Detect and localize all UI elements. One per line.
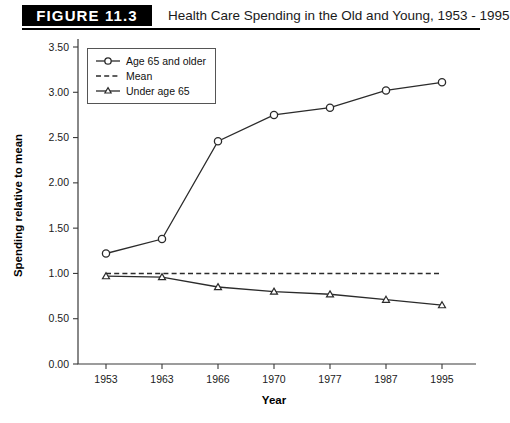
legend-label: Age 65 and older (126, 55, 206, 67)
y-tick-label: 2.00 (49, 176, 70, 188)
legend-label: Under age 65 (126, 85, 190, 97)
y-tick-label: 0.50 (49, 312, 70, 324)
legend-item-mean: Mean (95, 68, 206, 83)
header-divider (22, 28, 480, 30)
x-tick-label: 1953 (94, 373, 118, 385)
data-point-marker (270, 111, 277, 118)
y-tick-label: 0.00 (49, 358, 70, 370)
legend-key-circle-icon (95, 55, 121, 67)
x-tick-label: 1970 (262, 373, 286, 385)
data-point-marker (326, 104, 333, 111)
data-point-marker (438, 79, 445, 86)
y-tick-label: 2.50 (49, 131, 70, 143)
figure-title: Health Care Spending in the Old and Youn… (168, 6, 510, 26)
y-tick-label: 1.50 (49, 222, 70, 234)
x-tick-label: 1987 (374, 373, 398, 385)
line-chart: 0.000.501.001.502.002.503.003.5019531963… (0, 34, 499, 423)
data-point-marker (214, 138, 221, 145)
legend-key-dashed-icon (95, 70, 121, 82)
x-tick-label: 1995 (430, 373, 454, 385)
y-axis-title: Spending relative to mean (12, 134, 24, 277)
x-tick-label: 1977 (318, 373, 342, 385)
figure-header: FIGURE 11.3 Health Care Spending in the … (0, 0, 499, 34)
x-tick-label: 1966 (206, 373, 230, 385)
legend-item-age-65-and-older: Age 65 and older (95, 53, 206, 68)
y-tick-label: 1.00 (49, 267, 70, 279)
chart-canvas: 0.000.501.001.502.002.503.003.5019531963… (0, 34, 499, 423)
y-tick-label: 3.00 (49, 86, 70, 98)
data-point-marker (158, 235, 165, 242)
legend-item-under-age-65: Under age 65 (95, 83, 206, 98)
x-tick-label: 1963 (150, 373, 174, 385)
series-line-age-65-and-older (106, 82, 442, 253)
legend-label: Mean (126, 70, 152, 82)
y-tick-label: 3.50 (49, 41, 70, 53)
chart-legend: Age 65 and older Mean Under age 65 (87, 48, 216, 104)
data-point-marker (382, 87, 389, 94)
legend-key-triangle-icon (95, 85, 121, 97)
data-point-marker (102, 250, 109, 257)
figure-number-badge: FIGURE 11.3 (22, 5, 152, 26)
x-axis-title: Year (262, 394, 287, 406)
